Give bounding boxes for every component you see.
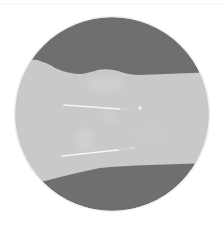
radiograph-view: [0, 0, 224, 227]
